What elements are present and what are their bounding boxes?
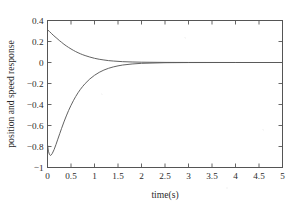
y-tick-label: −0.6 bbox=[27, 121, 44, 131]
x-tick-label: 0.5 bbox=[65, 171, 77, 181]
x-tick-label: 4.5 bbox=[253, 171, 265, 181]
y-axis-label: position and speed response bbox=[5, 40, 16, 147]
y-tick-label: −1 bbox=[34, 163, 44, 173]
x-tick-label: 3 bbox=[186, 171, 191, 181]
y-tick-label: 0.2 bbox=[32, 37, 44, 47]
x-axis-label: time(s) bbox=[151, 189, 178, 201]
x-tick-label: 1.5 bbox=[112, 171, 124, 181]
x-tick-label: 2.5 bbox=[159, 171, 171, 181]
x-tick-label: 4 bbox=[233, 171, 238, 181]
x-tick-label: 1 bbox=[92, 171, 97, 181]
x-tick-label: 5 bbox=[280, 171, 285, 181]
y-tick-label: 0 bbox=[39, 58, 44, 68]
x-tick-label: 2 bbox=[139, 171, 144, 181]
y-tick-label: −0.4 bbox=[27, 100, 44, 110]
chart-svg: 00.511.522.533.544.55 0.40.20−0.2−0.4−0.… bbox=[0, 0, 299, 209]
y-tick-label: −0.8 bbox=[27, 142, 44, 152]
figure-canvas: 00.511.522.533.544.55 0.40.20−0.2−0.4−0.… bbox=[0, 0, 299, 209]
x-tick-label: 3.5 bbox=[206, 171, 218, 181]
y-tick-label: −0.2 bbox=[27, 79, 44, 89]
y-tick-label: 0.4 bbox=[32, 16, 44, 26]
x-tick-label: 0 bbox=[45, 171, 50, 181]
